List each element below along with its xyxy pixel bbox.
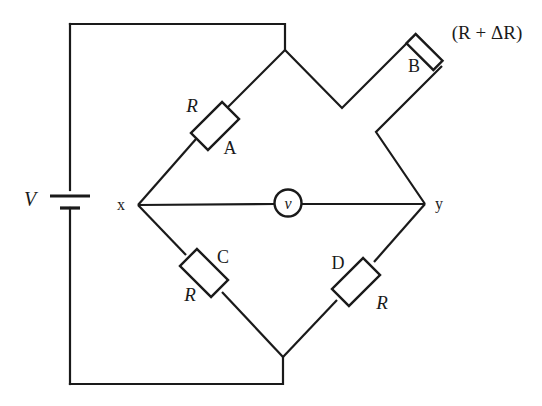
wire-arm-c-upper: [138, 205, 186, 255]
circuit-diagram: V x y v R A B (R + ΔR) C R D R: [0, 0, 542, 406]
node-label-x: x: [117, 197, 125, 213]
resistor-a-designator-label: A: [224, 139, 237, 157]
wire-bottom-supply: [70, 357, 283, 384]
wire-arm-c-lower: [222, 292, 283, 357]
circuit-schematic-svg: [0, 0, 542, 406]
wire-top-supply: [70, 24, 285, 50]
voltmeter-label: v: [284, 196, 291, 212]
wire-arm-b-upper: [285, 38, 412, 108]
wire-bridge-left: [138, 204, 275, 205]
resistor-c-designator-label: C: [217, 248, 229, 266]
wire-arm-b-lower: [376, 66, 442, 204]
resistor-a-value-label: R: [186, 96, 198, 115]
source-label: V: [24, 189, 36, 209]
resistor-b-designator-label: B: [408, 57, 420, 75]
wire-arm-d-upper: [374, 204, 425, 262]
resistor-b-value-label: (R + ΔR): [452, 23, 522, 42]
wire-arm-d-lower: [283, 300, 337, 357]
wire-arm-a-lower: [138, 139, 196, 205]
resistor-c-value-label: R: [184, 285, 196, 304]
resistor-d-designator-label: D: [332, 254, 345, 272]
node-label-y: y: [435, 196, 443, 212]
resistor-d-value-label: R: [376, 293, 388, 312]
